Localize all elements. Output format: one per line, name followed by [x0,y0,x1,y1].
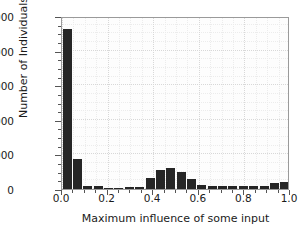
y-tick-mark-minor [58,164,61,165]
y-tick-mark-minor [58,26,61,27]
y-tick-mark-minor [58,43,61,44]
x-tick-mark-minor [141,190,142,193]
bar [63,29,72,189]
y-tick-mark-minor [58,147,61,148]
bar [228,186,237,189]
y-tick-mark-minor [58,78,61,79]
x-tick-mark [198,190,199,195]
x-tick-mark-minor [72,190,73,193]
x-tick-mark-minor [84,190,85,193]
y-tick-mark [55,121,61,122]
bar [270,183,279,189]
bar-series [62,18,288,189]
y-tick-label: 0 [0,185,14,196]
x-tick-mark-minor [164,190,165,193]
y-tick-label: 4000 [0,116,14,127]
y-tick-mark-minor [58,138,61,139]
x-axis-title: Maximum influence of some input [61,213,290,224]
y-axis-title: Number of Individuals [18,0,29,133]
y-tick-mark-minor [58,112,61,113]
y-tick-label: 8000 [0,47,14,58]
y-tick-mark [55,17,61,18]
y-tick-label: 2000 [0,150,14,161]
bar [239,186,248,189]
bar [156,170,165,189]
bar [177,172,186,189]
bar [280,182,289,189]
y-tick-mark-minor [58,181,61,182]
x-tick-mark-minor [175,190,176,193]
y-tick-mark-minor [58,69,61,70]
bar [218,186,227,189]
x-tick-mark-minor [278,190,279,193]
y-tick-label: 6000 [0,81,14,92]
bar [94,186,103,189]
y-tick-mark-minor [58,95,61,96]
bar [249,186,258,189]
bar [146,178,155,189]
bar [208,186,217,189]
x-tick-mark [289,190,290,195]
x-tick-mark [152,190,153,195]
y-tick-mark [55,52,61,53]
x-tick-mark-minor [221,190,222,193]
x-tick-mark-minor [266,190,267,193]
bar [166,168,175,189]
bar [114,188,123,189]
y-tick-mark [55,86,61,87]
y-tick-label: 10000 [0,12,14,23]
bar [135,187,144,189]
x-tick-mark-minor [118,190,119,193]
x-tick-label: 1.0 [269,193,307,204]
plot-area [61,17,289,190]
bar [83,186,92,189]
x-tick-mark [107,190,108,195]
bar [260,186,269,189]
y-tick-mark-minor [58,60,61,61]
y-tick-mark-minor [58,34,61,35]
bar [187,179,196,189]
bar [125,187,134,189]
y-tick-mark-minor [58,129,61,130]
histogram-figure: Number of Individuals 020004000600080001… [0,0,307,233]
x-tick-mark-minor [209,190,210,193]
x-tick-mark-minor [255,190,256,193]
x-tick-mark-minor [186,190,187,193]
x-tick-mark [61,190,62,195]
bar [73,159,82,189]
y-tick-mark-minor [58,104,61,105]
x-tick-mark [243,190,244,195]
bar [197,185,206,189]
bar [104,188,113,189]
x-tick-mark-minor [95,190,96,193]
x-tick-mark-minor [232,190,233,193]
y-tick-mark [55,155,61,156]
y-tick-mark-minor [58,173,61,174]
x-tick-mark-minor [129,190,130,193]
